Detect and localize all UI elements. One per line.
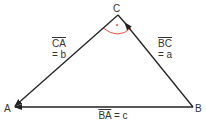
edge-bc — [125, 23, 193, 107]
vertex-label-a: A — [4, 103, 11, 114]
vertex-label-b: B — [195, 103, 202, 114]
vector-ba-eq: = c — [114, 110, 128, 121]
angle-dot — [116, 24, 118, 26]
edge-ca — [15, 15, 118, 106]
vector-bc-label: BC — [155, 38, 175, 49]
vertex-label-c: C — [113, 3, 120, 14]
triangle-diagram — [0, 0, 206, 127]
vector-ba-label: BA — [98, 110, 111, 121]
angle-arc — [103, 28, 131, 34]
vector-bc-eq: = a — [155, 49, 175, 60]
vector-ca-eq: = b — [49, 49, 69, 60]
vector-ca-label: CA — [49, 38, 69, 49]
